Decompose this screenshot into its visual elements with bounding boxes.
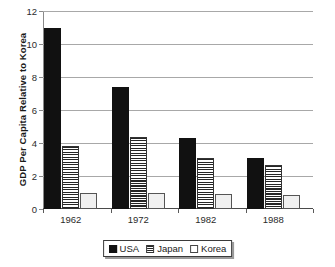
bar-usa-1962	[44, 28, 61, 210]
bar-korea-1982	[215, 194, 232, 209]
bar-usa-1972	[112, 87, 129, 209]
chart-legend: USAJapanKorea	[103, 240, 233, 257]
x-end-tick	[313, 209, 314, 213]
bar-group	[43, 11, 111, 209]
plot-area: 024681012	[43, 11, 313, 209]
legend-item-korea: Korea	[190, 243, 226, 254]
y-tick-label: 10	[26, 39, 37, 50]
x-end-tick	[43, 209, 44, 213]
bar-korea-1988	[283, 195, 300, 209]
y-tick-label: 8	[32, 72, 37, 83]
bar-usa-1988	[247, 158, 264, 209]
y-tick-label: 6	[32, 105, 37, 116]
y-tick-label: 2	[32, 171, 37, 182]
x-separator-tick	[246, 209, 247, 213]
bar-japan-1982	[197, 158, 214, 209]
bar-korea-1962	[80, 193, 97, 210]
bar-japan-1962	[62, 146, 79, 209]
bar-group	[178, 11, 246, 209]
x-axis-label-1988: 1988	[263, 214, 284, 225]
x-axis-label-1962: 1962	[60, 214, 81, 225]
x-separator-tick	[178, 209, 179, 213]
gdp-per-capita-bar-chart: GDP Per Capita Relative to Korea 0246810…	[0, 0, 335, 267]
bar-japan-1988	[265, 165, 282, 209]
white-swatch	[190, 245, 198, 253]
bar-japan-1972	[130, 137, 147, 209]
x-axis-label-1972: 1972	[128, 214, 149, 225]
solid-black-swatch	[109, 245, 117, 253]
y-tick-label: 12	[26, 6, 37, 17]
horizontal-stripe-swatch	[146, 245, 154, 253]
y-tick-label: 0	[32, 204, 37, 215]
legend-label: USA	[120, 243, 140, 254]
bar-korea-1972	[148, 193, 165, 209]
x-separator-tick	[111, 209, 112, 213]
bar-group	[111, 11, 179, 209]
bar-group	[246, 11, 314, 209]
x-axis-label-1982: 1982	[195, 214, 216, 225]
y-tick-label: 4	[32, 138, 37, 149]
bar-usa-1982	[179, 138, 196, 209]
legend-label: Korea	[201, 243, 226, 254]
legend-label: Japan	[157, 243, 183, 254]
legend-item-usa: USA	[109, 243, 140, 254]
legend-item-japan: Japan	[146, 243, 183, 254]
